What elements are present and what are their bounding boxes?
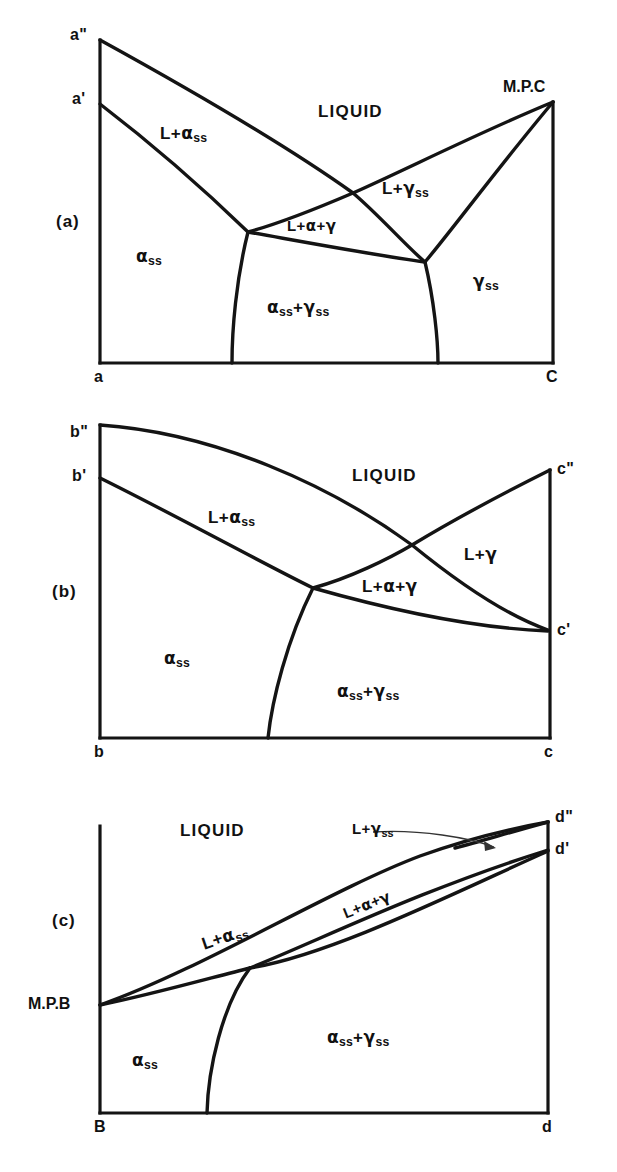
label-part-plus: + (219, 508, 229, 527)
panel-b-alpha-solvus (268, 588, 313, 738)
label-part-L: L (287, 217, 297, 234)
panel-b-region-alpha-gamma-ss: αss+γss (337, 683, 399, 703)
label-part-gamma: γ (363, 1027, 375, 1047)
panel-a-region-l-gamma-ss: L+γss (382, 180, 429, 200)
label-part-alpha: α (229, 507, 241, 527)
label-part-gamma: γ (406, 576, 418, 596)
label-part-L: L (352, 820, 362, 837)
label-part-ss: ss (339, 1035, 353, 1049)
label-part-ss: ss (385, 689, 399, 703)
label-part-plus: + (297, 217, 306, 234)
label-part-plus: + (395, 577, 405, 596)
panel-c-phase-boundaries (100, 822, 548, 1113)
panel-b-corner-c-prime: c' (557, 622, 571, 638)
panel-a-gamma-solvus (425, 262, 438, 363)
panel-b-axes (100, 425, 550, 738)
label-part-ss: ss (193, 131, 207, 145)
panel-c-gamma-liquidus-wedge (455, 822, 548, 848)
label-part-ss: ss (241, 515, 255, 529)
panel-b-tag: (b) (52, 583, 77, 600)
label-part-ss: ss (485, 279, 499, 293)
label-part-alpha: α (181, 123, 193, 143)
label-part-gamma: γ (303, 297, 315, 317)
panel-c-alpha-solvus (207, 968, 250, 1113)
panel-a-liquidus-left (100, 40, 353, 193)
panel-b-region-liquid: LIQUID (352, 467, 417, 484)
phase-diagram-figure: (a) a" a' a C M.P.C LIQUID L+αss L+γss L… (0, 0, 617, 1172)
panel-c-region-alpha-ss: αss (132, 1052, 158, 1072)
panel-a-alpha-solvus (232, 232, 248, 363)
label-part-gamma: γ (326, 217, 337, 235)
panel-c-alpha-solidus-upper (250, 850, 548, 968)
panel-b-three-phase-line (313, 588, 548, 631)
panel-a-region-alpha-gamma-ss: αss+γss (267, 299, 329, 319)
panel-a-corner-a-double-prime: a" (70, 27, 87, 43)
panel-c-corner-d-prime: d' (555, 841, 569, 857)
panel-b-liquidus-left (100, 425, 412, 545)
panel-b-solidus-left (100, 478, 313, 588)
panel-c-corner-d-double-prime: d" (555, 809, 573, 825)
label-part-ss: ss (349, 689, 363, 703)
panel-a-corner-C: C (546, 369, 558, 385)
panel-b-region-l-alpha-ss: L+αss (208, 509, 255, 529)
label-part-alpha: α (164, 648, 176, 668)
panel-b-region-l-alpha-gamma: L+α+γ (362, 578, 418, 595)
phase-diagram-lines (0, 0, 617, 1172)
label-part-ss: ss (144, 1058, 158, 1072)
panel-c-region-alpha-gamma-ss: αss+γss (327, 1029, 389, 1049)
panel-a-melting-point-C: M.P.C (503, 79, 545, 95)
label-part-plus: + (362, 820, 371, 837)
label-part-ss: ss (279, 305, 293, 319)
label-part-gamma: γ (485, 544, 497, 564)
label-part-plus: + (373, 577, 383, 596)
label-part-alpha: α (132, 1050, 144, 1070)
label-part-ss: ss (415, 186, 429, 200)
panel-b-corner-b-double-prime: b" (70, 424, 88, 440)
panel-a-gamma-solvus-upper (425, 102, 553, 262)
label-part-plus: + (293, 298, 303, 317)
label-part-plus: + (316, 217, 325, 234)
label-part-gamma: γ (371, 820, 382, 838)
panel-a-region-gamma-ss: γss (473, 273, 499, 293)
label-part-gamma: γ (403, 178, 415, 198)
label-part-L: L (208, 508, 219, 527)
panel-a-tag: (a) (56, 213, 80, 230)
label-part-ss: ss (315, 305, 329, 319)
label-part-alpha: α (306, 217, 317, 235)
panel-c-corner-B: B (94, 1119, 106, 1135)
panel-a-region-liquid: LIQUID (318, 103, 383, 120)
label-part-L: L (362, 577, 373, 596)
panel-a-corner-a-prime: a' (72, 91, 86, 107)
panel-c-axes (100, 822, 548, 1113)
label-part-gamma: γ (473, 271, 485, 291)
label-part-plus: + (475, 545, 485, 564)
panel-b-gamma-liquidus (412, 470, 550, 545)
label-part-ss: ss (375, 1035, 389, 1049)
panel-b-region-l-gamma: L+γ (464, 546, 497, 563)
label-part-alpha: α (383, 576, 395, 596)
label-part-ss: ss (381, 827, 393, 839)
label-part-ss: ss (148, 254, 162, 268)
label-part-L: L (160, 124, 171, 143)
panel-c-melting-point-B: M.P.B (28, 996, 70, 1012)
label-part-L: L (464, 545, 475, 564)
panel-a-region-l-alpha-ss: L+αss (160, 125, 207, 145)
panel-b-corner-b: b (94, 744, 104, 760)
label-part-alpha: α (267, 297, 279, 317)
panel-a-corner-a: a (94, 369, 103, 385)
label-part-plus: + (353, 1028, 363, 1047)
panel-c-corner-d: d (542, 1119, 552, 1135)
label-part-alpha: α (327, 1027, 339, 1047)
panel-c-tag: (c) (52, 912, 76, 929)
label-part-plus: + (393, 179, 403, 198)
label-part-plus: + (363, 682, 373, 701)
panel-c-region-liquid: LIQUID (180, 822, 245, 839)
panel-b-corner-c: c (544, 744, 553, 760)
panel-b-corner-b-prime: b' (72, 468, 86, 484)
panel-c-liquidus (100, 822, 548, 1005)
panel-a-region-l-alpha-gamma: L+α+γ (287, 218, 336, 234)
panel-a-region-alpha-ss: αss (136, 248, 162, 268)
label-part-gamma: γ (373, 681, 385, 701)
label-part-L: L (382, 179, 393, 198)
label-part-plus: + (171, 124, 181, 143)
